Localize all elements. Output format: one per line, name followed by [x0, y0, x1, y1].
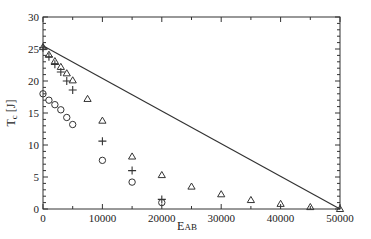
x-tick-label: 0: [40, 212, 46, 224]
y-tick-label: 20: [28, 75, 40, 87]
chart: 01000020000300004000050000051015202530 E…: [0, 0, 371, 239]
x-tick-label: 50000: [326, 212, 354, 224]
triangle-marker: [129, 153, 136, 159]
y-tick-label: 10: [28, 139, 40, 151]
x-tick-label: 20000: [148, 212, 176, 224]
triangle-marker: [188, 183, 195, 189]
triangle-marker: [99, 117, 106, 123]
y-tick-label: 5: [34, 171, 40, 183]
x-tick-label: 10000: [89, 212, 117, 224]
circle-marker: [52, 101, 58, 107]
circle-marker: [70, 121, 76, 127]
y-tick-label: 0: [34, 203, 40, 215]
y-tick-label: 30: [28, 11, 40, 23]
y-tick-label: 25: [28, 43, 40, 55]
triangle-marker: [247, 196, 254, 202]
circle-marker: [99, 157, 105, 163]
circle-marker: [46, 97, 52, 103]
x-axis-label: EAB: [177, 219, 197, 233]
x-tick-label: 40000: [267, 212, 295, 224]
data-layer: [39, 43, 344, 211]
plot-frame: [43, 17, 340, 209]
plus-marker: [69, 86, 77, 94]
axes: 01000020000300004000050000051015202530: [28, 11, 354, 224]
circle-marker: [129, 179, 135, 185]
triangle-marker: [158, 171, 165, 177]
triangle-marker: [63, 70, 70, 76]
x-tick-label: 30000: [207, 212, 235, 224]
plus-marker: [128, 167, 136, 175]
y-axis-label: Tc [J]: [4, 99, 19, 126]
triangle-marker: [69, 77, 76, 83]
plus-marker: [98, 137, 106, 145]
circle-marker: [64, 114, 70, 120]
series-circle: [40, 91, 165, 206]
plus-marker: [45, 53, 53, 61]
triangle-marker: [218, 191, 225, 197]
circle-marker: [58, 107, 64, 113]
plus-marker: [63, 77, 71, 85]
triangle-marker: [84, 95, 91, 101]
reference-line: [43, 46, 340, 209]
y-tick-label: 15: [28, 107, 40, 119]
